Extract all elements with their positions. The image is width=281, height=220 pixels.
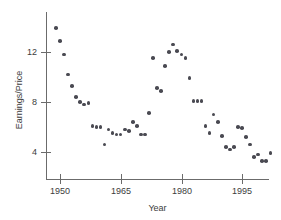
data-point (70, 84, 74, 88)
data-point (252, 155, 256, 159)
data-point (58, 39, 62, 43)
data-point (208, 131, 212, 135)
data-point (248, 143, 252, 147)
data-point (171, 43, 175, 47)
data-point (131, 120, 135, 124)
data-point (236, 125, 240, 129)
data-point (228, 148, 232, 152)
data-point (260, 159, 264, 163)
data-point (180, 53, 184, 57)
data-point (196, 99, 200, 103)
data-point (119, 133, 123, 137)
data-point (192, 99, 196, 103)
data-point (143, 133, 147, 137)
data-point (147, 111, 151, 115)
data-point (240, 126, 244, 130)
data-point (115, 133, 119, 137)
data-point (99, 125, 103, 129)
data-point (123, 128, 127, 132)
data-point (264, 159, 268, 163)
data-point (62, 53, 66, 57)
scatter-chart: 12 8 4 Earnings/Price 1950 1965 1980 199… (0, 0, 281, 220)
data-point (139, 133, 143, 137)
data-point (163, 64, 167, 68)
plot-area (0, 0, 281, 220)
data-point (216, 120, 220, 124)
data-point (151, 56, 155, 60)
data-point (127, 129, 131, 133)
data-point (54, 26, 58, 30)
data-point (175, 49, 179, 53)
data-point (155, 86, 159, 90)
data-point (78, 100, 82, 104)
data-point (87, 101, 91, 105)
data-point (95, 125, 99, 129)
data-point (220, 134, 224, 138)
data-point (244, 135, 248, 139)
data-point (224, 145, 228, 149)
data-point (66, 73, 70, 77)
data-point (188, 76, 192, 80)
data-point (256, 153, 260, 157)
data-point (103, 143, 107, 147)
data-point (111, 131, 115, 135)
data-point (204, 124, 208, 128)
data-point (212, 113, 216, 117)
data-point (74, 95, 78, 99)
data-point (184, 56, 188, 60)
data-point (232, 145, 236, 149)
data-point (82, 103, 86, 107)
data-point (167, 50, 171, 54)
data-point (135, 124, 139, 128)
data-point (269, 151, 273, 155)
data-point (159, 89, 163, 93)
data-point (200, 99, 204, 103)
data-point (107, 128, 111, 132)
data-point (91, 124, 95, 128)
